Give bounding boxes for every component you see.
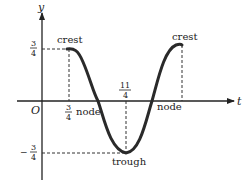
t-tick-three-quarters: 3 4: [65, 103, 72, 122]
amplitude-top-label: 3 4: [30, 39, 37, 58]
y-axis-label: y: [37, 1, 45, 14]
amplitude-bottom-label: − 3 4: [20, 143, 37, 162]
svg-text:4: 4: [31, 49, 36, 58]
svg-text:4: 4: [66, 113, 71, 122]
guide-lines: [42, 45, 182, 153]
wave-diagram: y t O 3 4 − 3 4 3 4 11 4 crest crest nod…: [0, 0, 243, 184]
svg-text:3: 3: [31, 39, 36, 48]
crest-left-label: crest: [57, 34, 82, 45]
origin-label: O: [31, 104, 40, 117]
svg-text:4: 4: [31, 153, 36, 162]
svg-text:3: 3: [66, 103, 71, 112]
svg-text:−: −: [20, 147, 28, 157]
node-right-label: node: [157, 101, 182, 112]
svg-text:4: 4: [123, 91, 128, 100]
node-left-label: node: [76, 106, 101, 117]
t-tick-eleven-quarters: 11 4: [119, 81, 131, 100]
t-axis-label: t: [237, 95, 242, 108]
crest-right-label: crest: [172, 31, 197, 42]
trough-label: trough: [112, 156, 147, 167]
svg-text:3: 3: [31, 143, 36, 152]
svg-text:11: 11: [120, 81, 130, 90]
